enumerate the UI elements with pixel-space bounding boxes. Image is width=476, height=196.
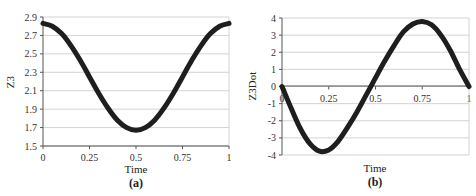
panel-label: (a) xyxy=(129,176,143,190)
chart-panel-b: 43210-1-2-3-4 00.250.50.751 Time (b) Z3D… xyxy=(246,13,472,190)
z3-line xyxy=(43,23,229,130)
chart-panel-a: 2.92.72.52.32.11.91.71.5 00.250.50.751 T… xyxy=(4,12,232,191)
y-tick-label: 2.3 xyxy=(25,67,38,78)
y-tick-label: 4 xyxy=(271,13,276,24)
x-axis-title: Time xyxy=(125,163,148,175)
y-tick-label: -3 xyxy=(268,132,276,143)
y-tick-labels: 43210-1-2-3-4 xyxy=(268,13,276,161)
y-tick-label: -2 xyxy=(268,115,276,126)
x-tick-label: 0 xyxy=(41,152,46,163)
x-tick-label: 0.5 xyxy=(130,152,143,163)
x-tick-label: 1 xyxy=(227,152,232,163)
y-tick-label: 2.1 xyxy=(25,85,38,96)
x-tick-label: 0.75 xyxy=(414,93,432,104)
y-tick-label: 1.9 xyxy=(25,104,38,115)
y-tick-label: 2.9 xyxy=(25,12,38,23)
y-tick-labels: 2.92.72.52.32.11.91.71.5 xyxy=(25,12,38,152)
panel-label: (b) xyxy=(368,175,383,189)
x-tick-label: 0.5 xyxy=(369,93,382,104)
y-tick-label: 2.5 xyxy=(25,48,38,59)
x-tick-labels: 00.250.50.751 xyxy=(280,93,472,104)
y-tick-label: -4 xyxy=(268,150,276,161)
x-tick-label: 0.25 xyxy=(81,152,99,163)
x-tick-label: 0.75 xyxy=(174,152,192,163)
x-axis-title: Time xyxy=(364,162,387,174)
y-tick-label: 1.5 xyxy=(25,141,38,152)
y-tick-label: 1 xyxy=(271,64,276,75)
y-tick-label: -1 xyxy=(268,98,276,109)
y-tick-label: 1.7 xyxy=(25,122,38,133)
y-axis-title: Z3Dot xyxy=(246,72,258,101)
y-tick-label: 2 xyxy=(271,47,276,58)
figure: 2.92.72.52.32.11.91.71.5 00.250.50.751 T… xyxy=(0,0,476,196)
y-tick-label: 2.7 xyxy=(25,30,38,41)
y-axis-title: Z3 xyxy=(4,75,16,88)
x-tick-labels: 00.250.50.751 xyxy=(41,152,232,163)
x-tick-label: 0.25 xyxy=(320,93,338,104)
y-tick-label: 3 xyxy=(271,30,276,41)
y-tick-label: 0 xyxy=(271,81,276,92)
